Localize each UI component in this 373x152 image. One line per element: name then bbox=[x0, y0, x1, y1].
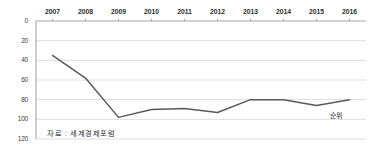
x-axis-tick-label-2015: 2015 bbox=[300, 8, 334, 16]
x-axis-tick-label-2016: 2016 bbox=[333, 8, 367, 16]
y-axis-tick-label-20: 20 bbox=[2, 37, 28, 44]
gridlines bbox=[36, 21, 366, 139]
x-axis-tick-label-2007: 2007 bbox=[36, 8, 70, 16]
unit-label: 순위 bbox=[330, 110, 342, 120]
y-axis-tick-label-80: 80 bbox=[2, 96, 28, 103]
x-axis-tick-label-2009: 2009 bbox=[102, 8, 136, 16]
data-series-line bbox=[53, 55, 350, 117]
x-axis-tick-label-2013: 2013 bbox=[234, 8, 268, 16]
x-axis-tick-label-2012: 2012 bbox=[201, 8, 235, 16]
y-axis-tick-label-40: 40 bbox=[2, 56, 28, 63]
x-axis-tick-label-2014: 2014 bbox=[267, 8, 301, 16]
y-axis-tick-label-100: 100 bbox=[2, 115, 28, 122]
y-axis-tick-label-0: 0 bbox=[2, 17, 28, 24]
x-axis-tick-label-2010: 2010 bbox=[135, 8, 169, 16]
source-note: 자료 : 세계경제포럼 bbox=[47, 128, 116, 138]
y-axis-tick-label-120: 120 bbox=[2, 135, 28, 142]
chart-container: 020406080100120 200720082009201020112012… bbox=[0, 0, 373, 152]
x-axis-tick-label-2011: 2011 bbox=[168, 8, 202, 16]
y-axis-tick-label-60: 60 bbox=[2, 76, 28, 83]
x-axis-tick-label-2008: 2008 bbox=[69, 8, 103, 16]
